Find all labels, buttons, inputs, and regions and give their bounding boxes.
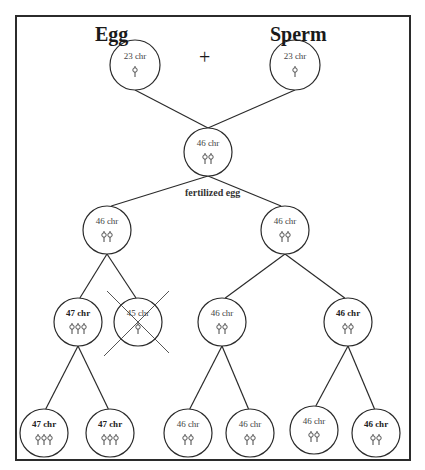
edge-gen2-a-to-gen3-a <box>46 346 78 409</box>
cell-gen3-c <box>164 409 212 457</box>
cell-label-gen2-d: 46 chr <box>328 308 368 318</box>
cell-circle <box>184 128 232 176</box>
cell-label-gen2-a: 47 chr <box>58 308 98 318</box>
cell-gen3-b <box>86 409 134 457</box>
edge-gen1-left-to-gen2-b <box>107 254 136 298</box>
cell-circle <box>110 40 160 90</box>
cell-gen2-c <box>198 298 246 346</box>
diagram-canvas: Egg Sperm + fertilized egg 23 chr23 chr4… <box>0 0 425 470</box>
cell-circle <box>261 206 309 254</box>
cell-circle <box>54 298 102 346</box>
cell-gen3-f <box>352 409 400 457</box>
edge-gen1-right-to-gen2-d <box>285 254 345 298</box>
sperm-title: Sperm <box>270 23 327 46</box>
edge-gen2-a-to-gen3-b <box>78 346 108 409</box>
cell-gen2-a <box>54 298 102 346</box>
edge-gen1-right-to-gen2-c <box>225 254 285 298</box>
cell-circle <box>164 409 212 457</box>
cell-label-gen3-c: 46 chr <box>168 419 208 429</box>
cell-circle <box>324 298 372 346</box>
cell-gen3-d <box>226 409 274 457</box>
fertilized-egg-label: fertilized egg <box>185 187 240 198</box>
cell-label-gen2-b: 45 chr <box>118 308 158 318</box>
cell-label-sperm: 23 chr <box>275 51 315 61</box>
cell-sperm <box>270 40 320 90</box>
cell-gen3-e <box>290 406 338 454</box>
cell-label-gen1-left: 46 chr <box>87 216 127 226</box>
edge-gen2-c-to-gen3-c <box>190 346 222 409</box>
cell-gen2-d <box>324 298 372 346</box>
cell-label-egg: 23 chr <box>115 51 155 61</box>
cell-gen2-b <box>104 291 169 356</box>
cell-circle <box>198 298 246 346</box>
plus-sign: + <box>199 46 210 69</box>
cell-circle <box>83 206 131 254</box>
cell-egg <box>110 40 160 90</box>
cell-label-gen1-right: 46 chr <box>265 216 305 226</box>
cell-zygote <box>184 128 232 176</box>
cell-label-gen3-a: 47 chr <box>24 419 64 429</box>
edge-gen2-d-to-gen3-e <box>316 346 348 406</box>
cell-label-zygote: 46 chr <box>188 138 228 148</box>
cell-circle <box>20 409 68 457</box>
cell-gen1-left <box>83 206 131 254</box>
edge-egg-to-zygote <box>135 90 208 128</box>
edge-gen1-left-to-gen2-a <box>80 254 107 298</box>
cell-label-gen3-e: 46 chr <box>294 416 334 426</box>
edge-gen2-d-to-gen3-f <box>348 346 375 409</box>
cell-circle <box>226 409 274 457</box>
cell-label-gen3-d: 46 chr <box>230 419 270 429</box>
edge-gen2-c-to-gen3-d <box>222 346 249 409</box>
edge-sperm-to-zygote <box>208 90 295 128</box>
cell-circle <box>270 40 320 90</box>
cell-label-gen2-c: 46 chr <box>202 308 242 318</box>
cell-division-tree <box>0 0 425 470</box>
cell-circle <box>290 406 338 454</box>
cell-label-gen3-b: 47 chr <box>90 419 130 429</box>
cell-gen1-right <box>261 206 309 254</box>
cell-gen3-a <box>20 409 68 457</box>
egg-title: Egg <box>95 23 128 46</box>
cell-circle <box>352 409 400 457</box>
cell-label-gen3-f: 46 chr <box>356 419 396 429</box>
cell-circle <box>86 409 134 457</box>
